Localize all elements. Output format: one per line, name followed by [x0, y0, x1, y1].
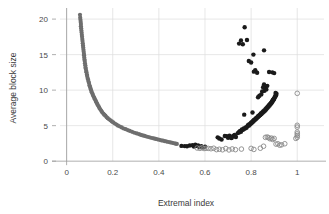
series-hollow-circle-points [195, 91, 300, 152]
y-tick-label: 20 [39, 15, 48, 24]
data-point [237, 41, 241, 45]
data-point [241, 42, 245, 46]
x-tick-label: 0.4 [153, 168, 165, 177]
series-gray-decay-curve [78, 13, 179, 146]
data-point [242, 25, 246, 29]
gridlines-group [60, 8, 324, 161]
data-point [242, 112, 246, 116]
data-point [175, 142, 179, 146]
series-black-filled-points [179, 25, 278, 149]
data-point [262, 48, 266, 52]
data-point [252, 147, 257, 152]
y-tick-label: 5 [44, 122, 49, 131]
data-point [272, 71, 276, 75]
x-tick-label: 0.2 [107, 168, 119, 177]
y-tick-labels-group: 05101520 [39, 15, 48, 166]
data-point [233, 147, 238, 152]
tick-marks-group [52, 19, 56, 161]
x-tick-label: 0 [64, 168, 69, 177]
data-point [273, 91, 277, 95]
x-tick-label: 1 [295, 168, 300, 177]
data-point [219, 137, 223, 141]
data-point [247, 59, 251, 63]
x-tick-label: 0.6 [199, 168, 211, 177]
plot-canvas: 00.20.40.60.81 05101520 Extremal index A… [0, 0, 329, 214]
data-point [250, 110, 254, 114]
y-axis-label: Average block size [8, 52, 18, 123]
data-point [251, 52, 255, 56]
data-point [261, 85, 265, 89]
y-tick-label: 15 [39, 51, 48, 60]
data-point [252, 69, 256, 73]
data-point [239, 147, 244, 152]
data-point [256, 95, 260, 99]
data-point [245, 38, 249, 42]
data-point [230, 136, 234, 140]
data-point [211, 146, 216, 151]
y-tick-label: 0 [44, 157, 49, 166]
x-tick-label: 0.8 [246, 168, 258, 177]
x-tick-labels-group: 00.20.40.60.81 [64, 168, 300, 177]
x-axis-label: Extremal index [158, 198, 215, 208]
data-point [237, 130, 241, 134]
scatter-chart-figure: 00.20.40.60.81 05101520 Extremal index A… [0, 0, 329, 214]
y-tick-label: 10 [39, 86, 48, 95]
data-series-group [78, 13, 300, 153]
